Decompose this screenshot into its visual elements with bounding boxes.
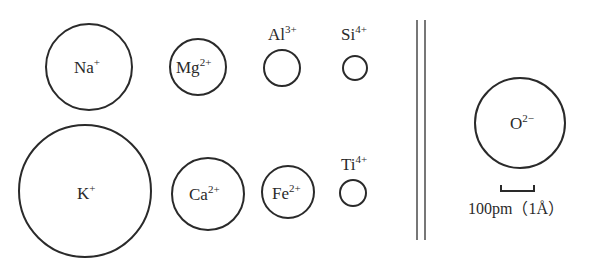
- ion-k: K+: [19, 125, 151, 257]
- ion-ti: Ti4+: [340, 153, 367, 206]
- ion-fe-label: Fe2+: [272, 182, 301, 203]
- ion-fe: Fe2+: [262, 166, 314, 218]
- scale-legend: 100pm（1Å）: [468, 185, 564, 218]
- ion-ca-label: Ca2+: [189, 183, 220, 204]
- ion-o: O2−: [475, 78, 565, 168]
- ion-ti-circle: [340, 180, 366, 206]
- ion-k-label: K+: [77, 182, 96, 203]
- ion-si: Si4+: [341, 23, 367, 80]
- ion-mg-label: Mg2+: [176, 56, 211, 77]
- divider-double-line: [417, 20, 425, 240]
- ion-si-circle: [343, 56, 367, 80]
- ion-ti-label: Ti4+: [341, 153, 367, 174]
- ion-si-label: Si4+: [341, 23, 367, 44]
- ion-al: Al3+: [264, 23, 300, 86]
- ion-mg: Mg2+: [170, 39, 226, 95]
- ion-na: Na+: [46, 24, 132, 110]
- ionic-radii-diagram: Na+ Mg2+ Al3+ Si4+ K+ Ca2+ Fe2+ Ti4+: [0, 0, 595, 264]
- scale-label: 100pm（1Å）: [468, 200, 564, 218]
- ion-al-circle: [264, 50, 300, 86]
- ion-o-label: O2−: [510, 112, 534, 133]
- ion-na-label: Na+: [74, 56, 100, 77]
- ion-al-label: Al3+: [268, 23, 297, 44]
- scale-bar: [501, 185, 534, 191]
- ion-ca: Ca2+: [172, 158, 244, 230]
